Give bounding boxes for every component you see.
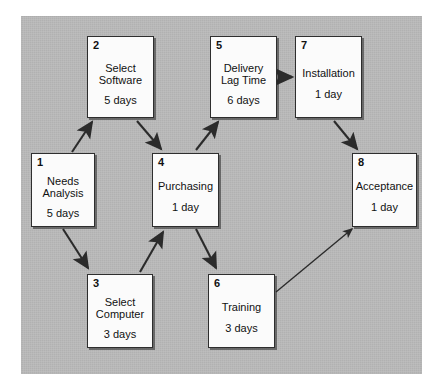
node-5-duration: 6 days <box>227 94 259 106</box>
node-5-body: Delivery Lag Time 6 days <box>211 54 276 113</box>
node-7-id: 7 <box>301 40 307 51</box>
node-8-name: Acceptance <box>354 180 415 192</box>
edge-6-8 <box>276 229 352 292</box>
node-6-body: Training 3 days <box>209 292 274 343</box>
node-8-duration: 1 day <box>371 201 398 213</box>
node-3-name: Select Computer <box>94 296 146 320</box>
node-5-id: 5 <box>216 40 222 51</box>
node-6-name: Training <box>220 301 263 313</box>
node-4[interactable]: 4 Purchasing 1 day <box>152 153 219 227</box>
node-8-id: 8 <box>358 157 364 168</box>
node-2[interactable]: 2 Select Software 5 days <box>87 36 154 118</box>
node-7-body: Installation 1 day <box>296 54 361 113</box>
edge-1-2 <box>72 122 92 152</box>
edge-7-8 <box>334 121 357 149</box>
node-1-id: 1 <box>37 157 43 168</box>
node-3[interactable]: 3 Select Computer 3 days <box>87 274 153 348</box>
node-5-name: Delivery Lag Time <box>219 62 268 86</box>
node-4-id: 4 <box>158 157 164 168</box>
node-4-name: Purchasing <box>156 180 215 192</box>
node-5[interactable]: 5 Delivery Lag Time 6 days <box>210 36 277 118</box>
node-7[interactable]: 7 Installation 1 day <box>295 36 362 118</box>
edge-1-3 <box>63 229 88 268</box>
node-3-duration: 3 days <box>104 328 136 340</box>
node-2-name: Select Software <box>97 62 144 86</box>
edge-4-6 <box>196 229 216 268</box>
node-7-name: Installation <box>300 67 357 79</box>
edge-4-5 <box>196 122 218 150</box>
node-8[interactable]: 8 Acceptance 1 day <box>352 153 417 227</box>
node-2-body: Select Software 5 days <box>88 54 153 113</box>
node-2-duration: 5 days <box>104 94 136 106</box>
node-4-body: Purchasing 1 day <box>153 171 218 222</box>
node-6-id: 6 <box>214 278 220 289</box>
node-1[interactable]: 1 Needs Analysis 5 days <box>31 153 95 227</box>
node-1-name: Needs Analysis <box>41 175 86 199</box>
node-4-duration: 1 day <box>172 201 199 213</box>
diagram-canvas: 1 Needs Analysis 5 days 2 Select Softwar… <box>0 0 442 391</box>
node-3-body: Select Computer 3 days <box>88 292 152 343</box>
node-3-id: 3 <box>93 278 99 289</box>
node-1-duration: 5 days <box>47 207 79 219</box>
node-6-duration: 3 days <box>225 322 257 334</box>
node-2-id: 2 <box>93 40 99 51</box>
node-7-duration: 1 day <box>315 88 342 100</box>
node-6[interactable]: 6 Training 3 days <box>208 274 275 348</box>
node-8-body: Acceptance 1 day <box>353 171 416 222</box>
edge-2-4 <box>137 121 161 149</box>
edge-3-4 <box>140 232 163 272</box>
node-1-body: Needs Analysis 5 days <box>32 171 94 222</box>
